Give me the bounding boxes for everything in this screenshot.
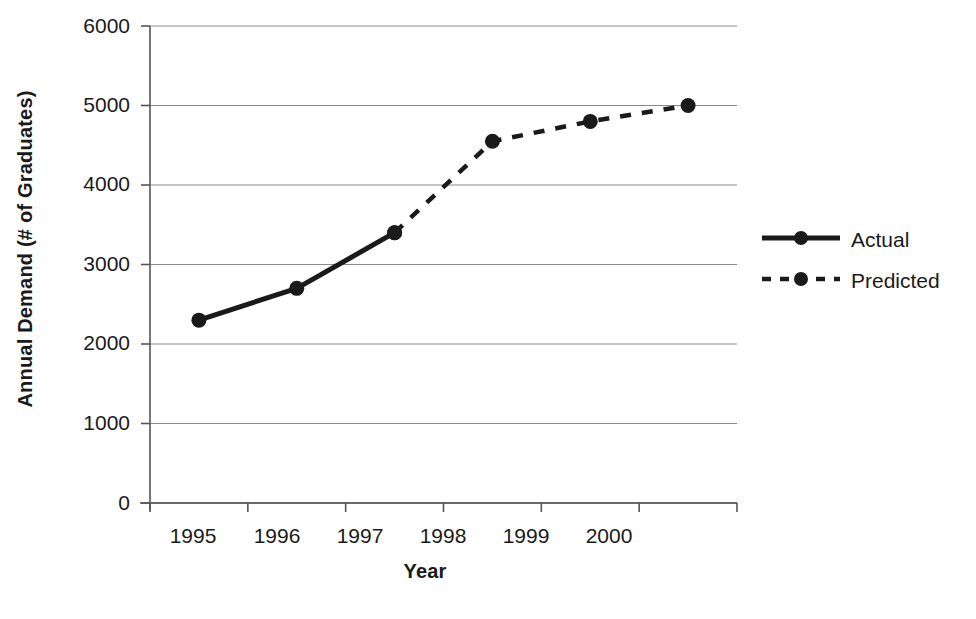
series-markers-predicted — [387, 98, 695, 240]
series-line-actual — [199, 233, 395, 320]
axis-lines — [140, 26, 737, 511]
y-tick-marks — [141, 26, 150, 503]
x-tick-marks — [150, 503, 737, 512]
plot-area — [0, 0, 976, 619]
chart-container: Annual Demand (# of Graduates) Year 6000… — [0, 0, 976, 619]
series-line-predicted — [395, 106, 688, 233]
legend-swatches — [762, 231, 840, 286]
gridlines — [150, 26, 737, 503]
